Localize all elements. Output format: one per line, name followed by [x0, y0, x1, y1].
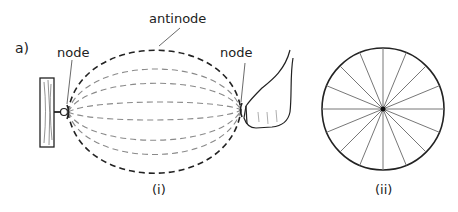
- right-node-mark: [241, 103, 243, 117]
- node-left-label: node: [57, 46, 89, 59]
- hand-drawing: [244, 50, 293, 128]
- standing-wave-figure: a) node antinode node (i) (ii): [0, 0, 458, 212]
- right-node-leader: [241, 63, 245, 102]
- attachment-ring: [61, 109, 68, 116]
- wall-block: [40, 78, 61, 147]
- caption-ii: (ii): [375, 183, 392, 196]
- end-view-circle: [322, 48, 444, 170]
- part-label: a): [15, 41, 29, 55]
- caption-i: (i): [152, 183, 166, 196]
- antinode-leader: [159, 28, 180, 46]
- node-right-label: node: [220, 46, 252, 59]
- antinode-label: antinode: [149, 12, 206, 25]
- inner-vibration-modes: [68, 69, 241, 155]
